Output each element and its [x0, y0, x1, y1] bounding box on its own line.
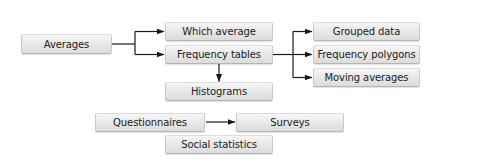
node-frequency-tables: Frequency tables [165, 45, 273, 64]
node-grouped-data: Grouped data [313, 22, 420, 41]
node-label: Frequency tables [177, 49, 261, 60]
node-moving-averages: Moving averages [313, 68, 420, 87]
node-label: Questionnaires [113, 117, 187, 128]
diagram-canvas: Averages Which average Frequency tables … [0, 0, 486, 163]
node-label: Moving averages [325, 72, 409, 83]
node-surveys: Surveys [236, 113, 344, 132]
node-averages: Averages [21, 34, 112, 54]
node-which-average: Which average [165, 22, 273, 41]
node-label: Histograms [191, 86, 247, 97]
node-social-statistics: Social statistics [165, 135, 273, 154]
node-frequency-polygons: Frequency polygons [313, 45, 420, 64]
node-label: Averages [44, 39, 89, 50]
node-label: Which average [182, 26, 256, 37]
node-histograms: Histograms [165, 82, 273, 101]
node-label: Social statistics [181, 139, 257, 150]
node-label: Grouped data [333, 26, 400, 37]
node-label: Surveys [270, 117, 309, 128]
node-label: Frequency polygons [317, 49, 415, 60]
node-questionnaires: Questionnaires [95, 113, 205, 132]
